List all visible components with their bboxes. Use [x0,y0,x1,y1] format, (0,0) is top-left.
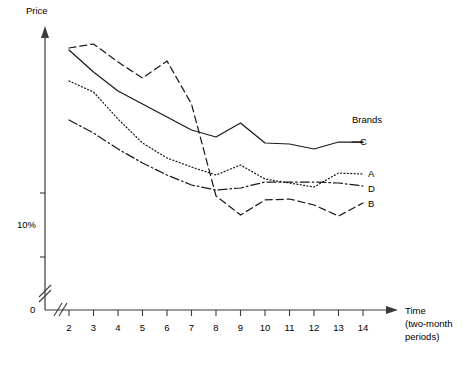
legend-key-B: B [368,198,374,210]
line-chart-figure: Price 10% 0 Time (two-month periods) 2 3… [0,0,467,369]
x-tick-label-4: 4 [109,322,127,334]
x-axis-title-line3: periods) [405,331,439,343]
series-lines [69,44,363,216]
legend-key-D: D [368,183,375,195]
x-axis-title-line2: (two-month [405,318,453,330]
x-axis-arrowhead [386,306,398,314]
y-axis-title: Price [26,5,48,17]
x-tick-label-11: 11 [281,322,299,334]
axis-break-markers [39,285,67,316]
x-tick-label-10: 10 [256,322,274,334]
chart-canvas [0,0,467,369]
x-tick-label-5: 5 [134,322,152,334]
y-axis-arrowhead [41,26,49,38]
x-tick-label-13: 13 [330,322,348,334]
series-line-A [69,81,363,187]
x-axis-title-line1: Time [405,305,426,317]
axis-group [41,26,398,314]
legend-key-A: A [368,168,374,180]
x-tick-label-14: 14 [354,322,372,334]
y-tick-marks [40,193,45,257]
x-tick-marks [69,310,363,316]
y-tick-label-10pct: 10% [17,219,36,231]
series-line-C [69,50,363,149]
series-line-B [69,44,363,216]
legend-key-C: C [360,136,367,148]
x-tick-label-7: 7 [183,322,201,334]
origin-label: 0 [30,304,35,316]
x-tick-label-12: 12 [305,322,323,334]
legend-title: Brands [352,114,382,126]
x-tick-label-6: 6 [158,322,176,334]
x-tick-label-9: 9 [232,322,250,334]
x-tick-label-8: 8 [207,322,225,334]
series-line-D [69,120,363,190]
x-tick-label-2: 2 [60,322,78,334]
x-tick-label-3: 3 [85,322,103,334]
